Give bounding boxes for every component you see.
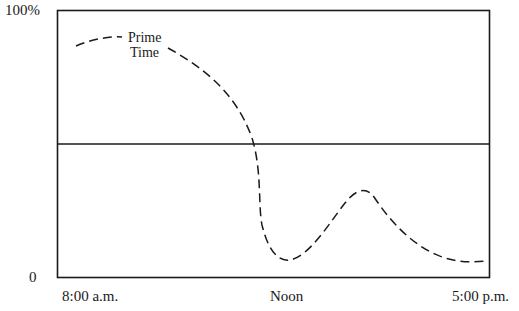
x-axis-end-label: 5:00 p.m. <box>452 289 509 304</box>
attention-curve <box>168 48 487 262</box>
annotation-line-2: Time <box>128 45 161 60</box>
y-axis-max-label: 100% <box>5 3 40 18</box>
x-axis-start-label: 8:00 a.m. <box>62 289 118 304</box>
chart-canvas <box>0 0 519 311</box>
x-axis-mid-label: Noon <box>270 289 303 304</box>
y-axis-min-label: 0 <box>29 270 37 285</box>
annotation-line-1: Prime <box>128 30 161 45</box>
prime-time-annotation: Prime Time <box>128 30 161 60</box>
attention-curve-start <box>76 37 122 46</box>
